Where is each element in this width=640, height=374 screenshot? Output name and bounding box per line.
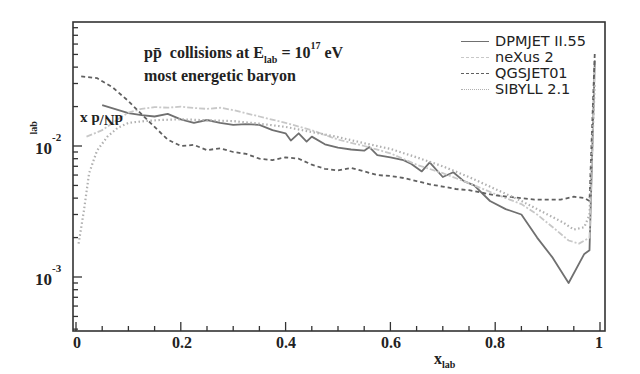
annotation-collisions: pp̄ collisions at Elab = 1017 eV xyxy=(144,43,343,65)
legend-item: QGSJET01 xyxy=(461,65,586,81)
annotation-baryon: most energetic baryon xyxy=(144,67,296,85)
x-tick-label-0.6: 0.6 xyxy=(381,334,401,352)
x-tick-label-0: 0 xyxy=(73,334,81,352)
legend-item: SIBYLL 2.1 xyxy=(461,81,586,97)
legend-swatch-icon xyxy=(461,41,489,42)
legend-label: SIBYLL 2.1 xyxy=(495,81,570,97)
legend-label: DPMJET II.55 xyxy=(495,33,586,49)
legend: DPMJET II.55neXus 2QGSJET01SIBYLL 2.1 xyxy=(461,33,586,97)
y-tick-label-1e-2: 10-2 xyxy=(35,137,61,159)
annotation-text: collisions at xyxy=(170,44,250,61)
y-axis-label-text: dN/d x xyxy=(13,111,123,128)
legend-swatch-icon xyxy=(461,89,489,90)
x-tick-label-0.8: 0.8 xyxy=(485,334,505,352)
x-axis-label: xlab xyxy=(434,350,455,370)
legend-label: QGSJET01 xyxy=(495,65,568,81)
x-tick-label-0.2: 0.2 xyxy=(172,334,192,352)
y-axis-label: dN/d xlab xyxy=(14,30,44,140)
x-tick-label-1: 1 xyxy=(595,334,603,352)
annotation-particles: pp̄ xyxy=(144,44,162,61)
y-tick-label-1e-3: 10-3 xyxy=(35,268,61,290)
legend-label: neXus 2 xyxy=(495,49,554,65)
legend-swatch-icon xyxy=(461,73,489,74)
legend-item: DPMJET II.55 xyxy=(461,33,586,49)
legend-swatch-icon xyxy=(461,57,489,58)
x-tick-label-0.4: 0.4 xyxy=(276,334,296,352)
legend-item: neXus 2 xyxy=(461,49,586,65)
